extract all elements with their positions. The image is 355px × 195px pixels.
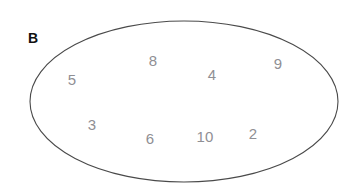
set-element: 9 bbox=[274, 56, 283, 71]
set-element: 3 bbox=[88, 117, 97, 132]
set-b-outline-svg bbox=[0, 0, 355, 195]
set-element: 4 bbox=[208, 67, 217, 82]
set-element: 10 bbox=[196, 129, 213, 144]
figure-canvas: B 5 8 4 9 3 6 10 2 bbox=[0, 0, 355, 195]
set-b-ellipse bbox=[30, 21, 338, 182]
set-element: 8 bbox=[149, 53, 158, 68]
set-element: 6 bbox=[146, 131, 155, 146]
set-label-b: B bbox=[28, 31, 38, 45]
set-element: 5 bbox=[68, 72, 77, 87]
set-element: 2 bbox=[249, 126, 258, 141]
